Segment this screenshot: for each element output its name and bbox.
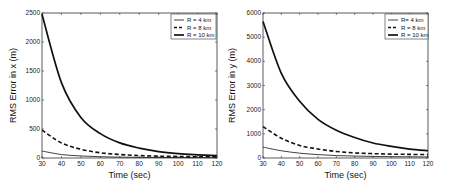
legend: R= 4 kmR = 8 kmR = 10 km — [385, 14, 429, 39]
y-axis-title: RMS Error in y (m) — [227, 48, 237, 123]
legend-label: R = 8 km — [401, 25, 425, 31]
y-tick-label: 1000 — [247, 130, 262, 137]
x-tick-label: 90 — [369, 160, 377, 167]
x-tick-label: 70 — [333, 160, 341, 167]
y-tick-label: 0 — [257, 154, 261, 161]
x-tick-label: 120 — [423, 160, 434, 167]
series-line — [263, 127, 428, 155]
rms-error-y-plot: 3040506070809010011012001000200030004000… — [0, 0, 449, 185]
series-line — [263, 21, 428, 150]
legend-label: R = 10 km — [401, 32, 429, 38]
x-axis-title: Time (sec) — [324, 170, 366, 180]
y-tick-label: 3000 — [247, 82, 262, 89]
x-tick-label: 60 — [314, 160, 322, 167]
x-tick-label: 100 — [386, 160, 397, 167]
x-tick-label: 50 — [296, 160, 304, 167]
x-tick-label: 110 — [404, 160, 415, 167]
x-tick-label: 80 — [351, 160, 359, 167]
y-tick-label: 6000 — [247, 9, 262, 16]
y-tick-label: 5000 — [247, 33, 262, 40]
x-tick-label: 30 — [259, 160, 267, 167]
rms-error-y-chart: 3040506070809010011012001000200030004000… — [0, 0, 224, 185]
y-tick-label: 4000 — [247, 57, 262, 64]
y-tick-label: 2000 — [247, 106, 262, 113]
x-tick-label: 40 — [278, 160, 286, 167]
legend-label: R= 4 km — [401, 17, 424, 23]
